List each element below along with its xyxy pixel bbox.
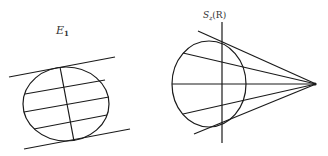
pencil-line-top: [198, 31, 316, 84]
pencil-line-bottom: [194, 84, 316, 134]
bottom-tangent-line: [24, 129, 130, 149]
right-figure-label: Sz(R): [203, 10, 226, 21]
diagram-canvas: E1 Sz(R): [0, 0, 328, 156]
pencil-line-2: [183, 53, 316, 84]
chord-3: [34, 115, 107, 129]
left-figure: E1: [9, 24, 130, 149]
apex-point: [313, 82, 316, 85]
pencil-line-4: [183, 84, 316, 114]
left-figure-label: E1: [55, 24, 69, 38]
right-figure: Sz(R): [172, 10, 317, 143]
